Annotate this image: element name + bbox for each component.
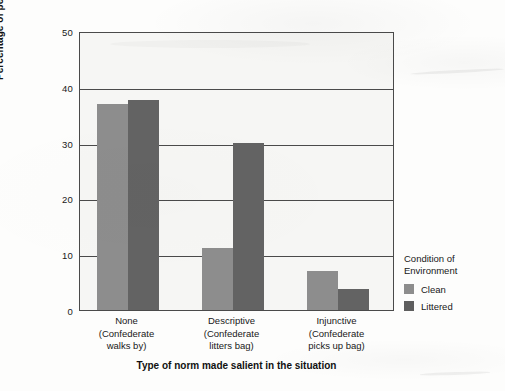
- legend-swatch-clean: [404, 284, 414, 294]
- y-tick-label-20: 20: [45, 194, 73, 205]
- x-label-none-line-3: walks by): [67, 340, 187, 353]
- legend-title-line-2: Environment: [404, 265, 504, 277]
- legend-label-littered: Littered: [421, 301, 453, 312]
- bar-descriptive-clean: [202, 248, 233, 310]
- x-label-injunctive-line-1: Injunctive: [277, 315, 397, 328]
- y-tick-label-40: 40: [45, 82, 73, 93]
- legend-title: Condition of Environment: [404, 253, 504, 278]
- legend-entry-littered: Littered: [404, 301, 504, 312]
- y-tick-label-50: 50: [45, 27, 73, 38]
- y-axis-title: Percentage of people littering: [0, 0, 5, 80]
- scan-artifact-bottom-right: [420, 371, 490, 376]
- x-label-injunctive-line-2: (Confederate: [277, 328, 397, 341]
- x-label-descriptive: Descriptive(Confederatelitters bag): [172, 315, 292, 353]
- y-tick-label-30: 30: [45, 138, 73, 149]
- x-label-descriptive-line-3: litters bag): [172, 340, 292, 353]
- bar-none-littered: [128, 100, 159, 310]
- bar-injunctive-clean: [307, 271, 338, 310]
- x-label-injunctive: Injunctive(Confederatepicks up bag): [277, 315, 397, 353]
- gridline-40: [80, 89, 393, 90]
- scan-artifact-top-right: [410, 68, 505, 76]
- bar-descriptive-littered: [233, 143, 264, 310]
- plot-area: [79, 32, 394, 311]
- legend-title-line-1: Condition of: [404, 253, 504, 265]
- legend-swatch-littered: [404, 301, 414, 311]
- x-label-injunctive-line-3: picks up bag): [277, 340, 397, 353]
- bar-injunctive-littered: [338, 289, 369, 310]
- legend-label-clean: Clean: [421, 284, 446, 295]
- chart-page: Percentage of people littering 010203040…: [0, 0, 505, 391]
- x-axis-title: Type of norm made salient in the situati…: [79, 360, 394, 371]
- legend-entries: CleanLittered: [404, 284, 504, 312]
- x-label-descriptive-line-1: Descriptive: [172, 315, 292, 328]
- bar-none-clean: [97, 104, 128, 310]
- legend: Condition of Environment CleanLittered: [404, 253, 504, 312]
- y-tick-label-10: 10: [45, 250, 73, 261]
- x-label-descriptive-line-2: (Confederate: [172, 328, 292, 341]
- x-label-none-line-1: None: [67, 315, 187, 328]
- x-label-none-line-2: (Confederate: [67, 328, 187, 341]
- legend-entry-clean: Clean: [404, 284, 504, 295]
- x-label-none: None(Confederatewalks by): [67, 315, 187, 353]
